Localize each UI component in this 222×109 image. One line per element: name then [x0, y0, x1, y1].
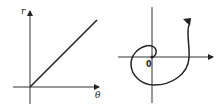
diagram-canvas: r θ 0 [0, 0, 222, 109]
origin-label: 0 [146, 60, 152, 69]
origin-point [150, 55, 153, 58]
spiral-arrowhead-icon [183, 18, 191, 26]
left-plot: r θ [13, 6, 101, 104]
x-axis-label: θ [95, 90, 101, 100]
right-plot: 0 [118, 7, 213, 103]
r-theta-line [30, 20, 97, 87]
y-axis-label: r [21, 6, 26, 16]
spiral-curve [131, 25, 189, 85]
